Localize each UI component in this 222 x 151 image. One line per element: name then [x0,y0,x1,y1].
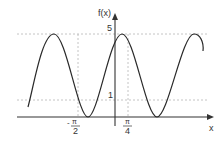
x-axis-arrow-icon [207,114,214,120]
y-axis-label: f(x) [98,8,111,18]
x-tick-pi-over-4: π 4 [123,118,132,136]
x-axis-label: x [209,123,214,133]
function-graph: f(x) x 5 1 - π 2 π 4 [0,0,222,151]
tick-numerator: π [125,118,130,125]
tick-sign: - [67,118,70,127]
y-tick-5: 5 [107,23,112,33]
y-axis-arrow-icon [112,13,118,20]
tick-denominator: 2 [73,126,78,136]
function-curve [28,34,203,117]
y-tick-1: 1 [108,90,113,100]
reference-lines [17,34,208,117]
tick-denominator: 4 [125,126,130,136]
x-tick-neg-pi-over-2: - π 2 [67,118,80,136]
tick-numerator: π [72,118,77,125]
axes [17,13,214,126]
